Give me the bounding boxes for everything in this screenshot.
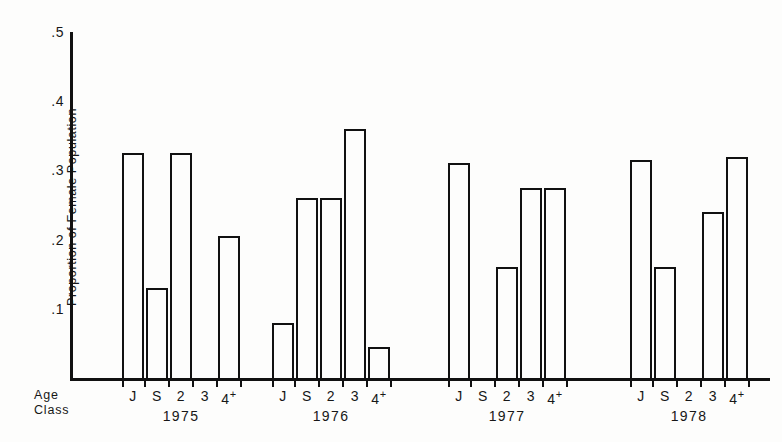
bar (448, 163, 470, 378)
x-category-label: 2 (177, 388, 185, 404)
x-group-year-label: 1977 (489, 408, 526, 424)
x-axis-labels: JS234+1975JS234+1976JS234+1977JS234+1978 (70, 386, 770, 442)
x-group-year-label: 1978 (671, 408, 708, 424)
x-category-label: J (455, 388, 463, 404)
x-category-label: S (660, 388, 670, 404)
x-category-label: 4+ (729, 388, 744, 407)
bar (544, 188, 566, 378)
bar (726, 157, 748, 378)
y-tick-label: .3 (24, 162, 64, 178)
chart-figure: Proportion of Female Population .5.4.3.2… (0, 0, 782, 442)
bar (170, 153, 192, 378)
bar (146, 288, 168, 378)
x-category-label: 3 (201, 388, 209, 404)
x-category-label: 2 (503, 388, 511, 404)
x-category-label: J (129, 388, 137, 404)
bar (320, 198, 342, 378)
x-category-label: J (637, 388, 645, 404)
x-category-label: 3 (709, 388, 717, 404)
y-tick-label: .5 (24, 24, 64, 40)
bar (218, 236, 240, 378)
plot-area (70, 32, 770, 378)
x-category-label: J (279, 388, 287, 404)
x-category-label: 2 (685, 388, 693, 404)
x-category-label: 3 (527, 388, 535, 404)
bar (496, 267, 518, 378)
bar (272, 323, 294, 378)
y-tick-label: .2 (24, 232, 64, 248)
x-axis-title-line1: Age (34, 388, 69, 403)
bar (368, 347, 390, 378)
bar (654, 267, 676, 378)
y-axis-tick-labels: .5.4.3.2.1 (18, 0, 64, 442)
x-category-label: 3 (351, 388, 359, 404)
x-category-label: S (152, 388, 162, 404)
x-group-year-label: 1975 (163, 408, 200, 424)
x-category-label: 4+ (371, 388, 386, 407)
x-category-label: S (478, 388, 488, 404)
x-group-year-label: 1976 (313, 408, 350, 424)
x-category-label: 2 (327, 388, 335, 404)
x-axis-title: Age Class (34, 388, 69, 418)
bar (122, 153, 144, 378)
y-tick-label: .1 (24, 301, 64, 317)
bar (296, 198, 318, 378)
x-category-label: S (302, 388, 312, 404)
bar (344, 129, 366, 378)
bar (630, 160, 652, 378)
y-tick-label: .4 (24, 93, 64, 109)
bar (702, 212, 724, 378)
x-axis-line (70, 378, 770, 381)
x-axis-title-line2: Class (34, 403, 69, 418)
x-category-label: 4+ (221, 388, 236, 407)
x-category-label: 4+ (547, 388, 562, 407)
bar (520, 188, 542, 378)
